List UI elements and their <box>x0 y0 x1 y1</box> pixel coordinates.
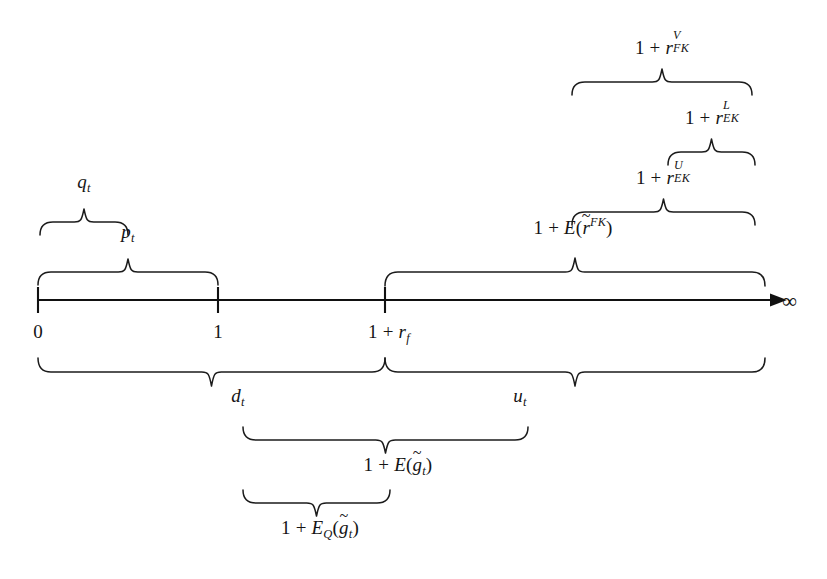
eqg-E-subscript: Q <box>323 527 332 541</box>
eku-prefix: 1 + <box>636 167 667 188</box>
brace-d-t <box>38 358 385 386</box>
ekl-supsub: LEK <box>723 102 739 126</box>
q-base: q <box>77 171 87 192</box>
eqg-g-tilde: ~g <box>339 518 349 537</box>
label-one-plus-r-EK-L: 1 + rLEK <box>685 102 739 127</box>
eg-prefix: 1 + <box>364 454 395 475</box>
eg-paren-close: ) <box>426 454 433 475</box>
u-base: u <box>513 385 523 406</box>
fkv-subscript: FK <box>673 42 689 54</box>
axis-tick-label-zero: 0 <box>33 322 43 341</box>
eqg-subscript: t <box>349 527 353 541</box>
infinity-symbol: ∞ <box>782 289 797 313</box>
eqg-tilde-accent: ~ <box>339 508 348 524</box>
ekl-subscript: EK <box>723 112 739 124</box>
axis-tick-label-one: 1 <box>213 322 223 341</box>
eqg-E: E <box>312 517 324 538</box>
brace-p-t <box>38 259 218 285</box>
label-u-t: ut <box>513 386 526 405</box>
label-one-plus-E-Q-g-tilde: 1 + EQ(~gt) <box>281 518 359 537</box>
axis-tick-label-one-plus-rf: 1 + rf <box>368 322 410 341</box>
brace-one-plus-E-Q-g-tilde <box>243 490 390 516</box>
axis-infinity-label: ∞ <box>782 291 797 312</box>
number-line-diagram: 0 1 1 + rf ∞ qt pt 1 + rVFK 1 + rLEK 1 +… <box>0 0 827 579</box>
p-subscript: t <box>131 231 135 245</box>
label-p-t: pt <box>121 222 134 241</box>
label-q-t: qt <box>77 172 90 191</box>
label-one-plus-r-FK-V: 1 + rVFK <box>635 32 689 57</box>
tick-rf-subscript: f <box>406 331 410 345</box>
q-subscript: t <box>87 181 91 195</box>
efk-paren-close: ) <box>606 217 613 238</box>
eku-subscript: EK <box>674 172 690 184</box>
diagram-canvas <box>0 0 827 579</box>
eku-superscript: U <box>674 159 690 171</box>
brace-u-t <box>385 358 765 386</box>
d-base: d <box>231 385 241 406</box>
label-one-plus-E-r-tilde-FK: 1 + E(~rFK) <box>534 218 613 237</box>
ekl-r-base: r <box>715 107 723 128</box>
eku-supsub: UEK <box>674 162 690 186</box>
label-one-plus-E-g-tilde: 1 + E(~gt) <box>364 455 433 474</box>
fkv-supsub: VFK <box>673 32 689 56</box>
tick-rf-prefix: 1 + <box>368 321 399 342</box>
efk-superscript: FK <box>590 215 606 229</box>
axis-layer <box>38 287 787 313</box>
label-one-plus-r-EK-U: 1 + rUEK <box>636 162 690 187</box>
eqg-paren-close: ) <box>352 517 359 538</box>
eg-subscript: t <box>422 464 426 478</box>
fkv-r-base: r <box>665 37 673 58</box>
brace-one-plus-E-g-tilde <box>243 427 528 453</box>
fkv-prefix: 1 + <box>635 37 666 58</box>
brace-one-plus-r-FK-V <box>572 69 752 95</box>
d-subscript: t <box>241 395 245 409</box>
tick-rf-base: r <box>399 321 407 342</box>
braces-layer <box>38 69 765 516</box>
p-base: p <box>121 221 131 242</box>
ekl-superscript: L <box>723 99 739 111</box>
u-subscript: t <box>523 395 527 409</box>
tick-zero-text: 0 <box>33 321 43 342</box>
tick-one-text: 1 <box>213 321 223 342</box>
eqg-prefix: 1 + <box>281 517 312 538</box>
fkv-superscript: V <box>673 29 689 41</box>
eg-E: E <box>394 454 406 475</box>
brace-q-t <box>40 209 128 235</box>
label-d-t: dt <box>231 386 244 405</box>
eku-r-base: r <box>666 167 674 188</box>
eg-tilde-accent: ~ <box>413 445 422 461</box>
ekl-prefix: 1 + <box>685 107 716 128</box>
efk-prefix: 1 + <box>534 217 565 238</box>
brace-one-plus-E-r-tilde-FK <box>385 258 765 286</box>
eg-g-tilde: ~g <box>412 455 422 474</box>
efk-E: E <box>564 217 576 238</box>
